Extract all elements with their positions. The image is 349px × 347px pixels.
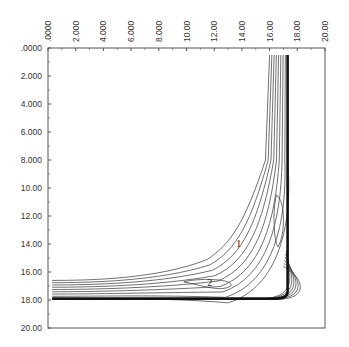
y-tick-label: 20.00 xyxy=(21,323,43,333)
contour-line xyxy=(52,55,289,303)
y-tick-label: 12.00 xyxy=(21,211,43,221)
x-tick-label: 16.00 xyxy=(265,20,275,42)
contour-line xyxy=(52,55,278,290)
contour-line xyxy=(52,55,283,294)
y-tick-label: .0000 xyxy=(21,43,43,53)
x-tick-label: 10.00 xyxy=(182,20,192,42)
x-tick-label: 20.00 xyxy=(320,20,330,42)
x-tick-label: .0000 xyxy=(43,20,53,42)
contour-line xyxy=(52,55,276,287)
x-tick-label: 14.00 xyxy=(237,20,247,42)
y-tick-label: 4.000 xyxy=(21,99,43,109)
contour-line xyxy=(52,55,274,285)
y-tick-label: 6.000 xyxy=(21,127,43,137)
x-tick-label: 2.000 xyxy=(71,20,81,42)
x-tick-label: 4.000 xyxy=(98,20,108,42)
x-axis-ticks: .00002.0004.0006.0008.00010.0012.0014.00… xyxy=(43,20,330,51)
contour-line xyxy=(52,55,285,297)
y-tick-label: 14.00 xyxy=(21,239,43,249)
x-tick-label: 8.000 xyxy=(154,20,164,42)
x-tick-label: 12.00 xyxy=(209,20,219,42)
plot-frame xyxy=(48,48,325,328)
y-tick-label: 8.000 xyxy=(21,155,43,165)
y-axis-ticks: .00002.0004.0006.0008.00010.0012.0014.00… xyxy=(21,43,51,333)
y-tick-label: 18.00 xyxy=(21,295,43,305)
y-tick-label: 10.00 xyxy=(21,183,43,193)
contour-line xyxy=(267,263,298,299)
contour-level-label: 2 xyxy=(207,277,212,288)
contour-lines xyxy=(52,55,300,303)
y-tick-label: 16.00 xyxy=(21,267,43,277)
y-tick-label: 2.000 xyxy=(21,71,43,81)
contour-plot: .00002.0004.0006.0008.00010.0012.0014.00… xyxy=(0,0,349,347)
contour-line xyxy=(52,55,281,292)
contour-level-label: 1 xyxy=(236,238,241,249)
x-tick-label: 18.00 xyxy=(292,20,302,42)
x-tick-label: 6.000 xyxy=(126,20,136,42)
